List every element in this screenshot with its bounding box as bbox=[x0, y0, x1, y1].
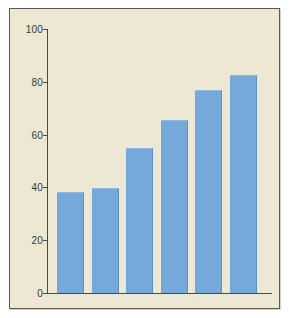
bar[interactable]: 39.9%9th–12th, no diploma bbox=[92, 188, 119, 293]
bar[interactable]: 77%Bachelor's degree bbox=[195, 90, 222, 293]
chart-figure: 020406080100 38.1%Less than 9th grade39.… bbox=[9, 8, 280, 309]
x-axis-line bbox=[47, 293, 272, 294]
bar-group[interactable]: 65.4%Some college or associate degree bbox=[161, 120, 188, 293]
y-axis-tick-label: 60 bbox=[31, 129, 43, 140]
y-axis-tick-label: 80 bbox=[31, 76, 43, 87]
bar-group[interactable]: 82.7%Advanced degree bbox=[230, 75, 257, 293]
bar-group[interactable]: 77%Bachelor's degree bbox=[195, 90, 222, 293]
y-axis-tick-label: 40 bbox=[31, 182, 43, 193]
bar[interactable]: 65.4%Some college or associate degree bbox=[161, 120, 188, 293]
y-axis-tick-label: 100 bbox=[26, 24, 43, 35]
plot-area: 020406080100 38.1%Less than 9th grade39.… bbox=[10, 9, 279, 308]
bar-group[interactable]: 54.9%High school graduate bbox=[126, 148, 153, 293]
bar-series: 38.1%Less than 9th grade39.9%9th–12th, n… bbox=[47, 29, 272, 293]
bar-group[interactable]: 38.1%Less than 9th grade bbox=[57, 192, 84, 293]
y-axis-tick-label: 20 bbox=[31, 235, 43, 246]
bar[interactable]: 38.1%Less than 9th grade bbox=[57, 192, 84, 293]
bar-group[interactable]: 39.9%9th–12th, no diploma bbox=[92, 188, 119, 293]
bar[interactable]: 82.7%Advanced degree bbox=[230, 75, 257, 293]
bar[interactable]: 54.9%High school graduate bbox=[126, 148, 153, 293]
y-axis-tick-mark bbox=[43, 293, 48, 294]
y-axis-tick-label: 0 bbox=[37, 288, 43, 299]
